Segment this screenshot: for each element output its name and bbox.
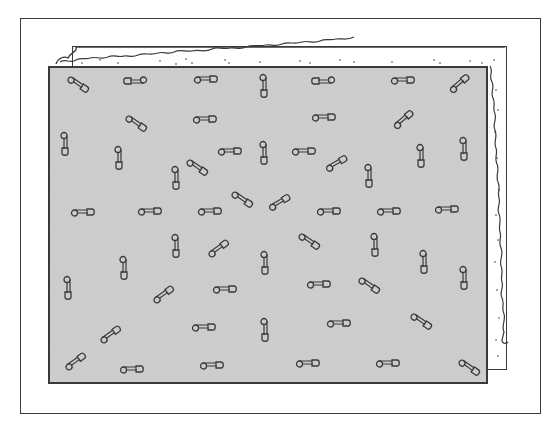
safety-pin-icon [311, 113, 337, 123]
safety-pin-icon [434, 205, 460, 215]
safety-pin-icon [259, 317, 269, 343]
safety-pin-icon [113, 145, 123, 171]
safety-pin-icon [70, 208, 96, 218]
safety-pin-icon [170, 233, 180, 259]
safety-pin-icon [369, 232, 379, 258]
safety-pin-icon [390, 76, 416, 86]
safety-pin-icon [376, 207, 402, 217]
safety-pin-icon [415, 143, 425, 169]
safety-pin-icon [316, 207, 342, 217]
safety-pin-icon [458, 136, 468, 162]
safety-pin-icon [193, 75, 219, 85]
safety-pin-icon [258, 73, 268, 99]
safety-pin-icon [259, 250, 269, 276]
safety-pin-icon [217, 147, 243, 157]
safety-pin-icon [197, 207, 223, 217]
safety-pin-icon [375, 359, 401, 369]
safety-pin-icon [458, 265, 468, 291]
safety-pin-icon [137, 207, 163, 217]
safety-pin-icon [62, 275, 72, 301]
safety-pin-icon [170, 165, 180, 191]
safety-pin-icon [291, 147, 317, 157]
safety-pin-icon [310, 75, 336, 85]
safety-pin-icon [212, 285, 238, 295]
safety-pin-icon [191, 323, 217, 333]
safety-pin-icon [199, 361, 225, 371]
safety-pin-icon [59, 131, 69, 157]
safety-pin-icon [122, 75, 148, 85]
safety-pin-icon [192, 115, 218, 125]
safety-pin-icon [418, 249, 428, 275]
safety-pin-icon [258, 140, 268, 166]
safety-pin-icon [363, 163, 373, 189]
safety-pin-icon [118, 255, 128, 281]
safety-pin-icon [295, 359, 321, 369]
safety-pin-icon [306, 280, 332, 290]
safety-pin-icon [326, 319, 352, 329]
safety-pin-icon [119, 365, 145, 375]
